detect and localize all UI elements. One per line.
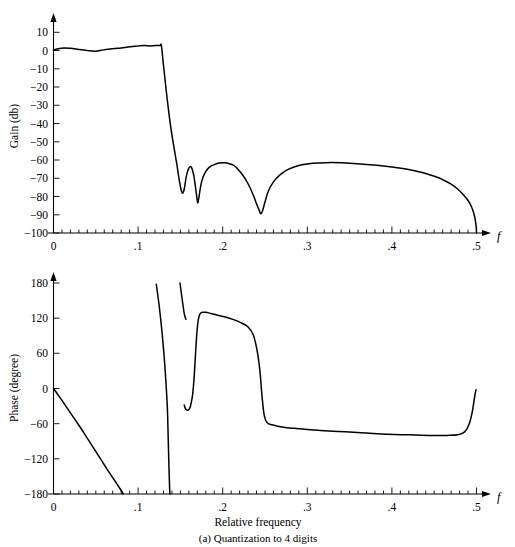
gain-x-ticklabel: .5 — [472, 240, 481, 252]
gain-y-ticklabel: −90 — [30, 209, 48, 221]
gain-y-ticklabels: 10 0 −10 −20 −30 −40 −50 −60 −70 −80 −90… — [24, 26, 48, 239]
phase-x-axis-symbol: f — [497, 490, 502, 504]
gain-x-axis-arrowhead — [482, 230, 491, 236]
phase-y-ticklabels: 180 120 60 0 −60 −120 −180 — [24, 277, 48, 500]
figure-svg: 10 0 −10 −20 −30 −40 −50 −60 −70 −80 −90… — [0, 0, 515, 547]
gain-y-ticklabel: −30 — [30, 99, 48, 111]
phase-x-ticklabel: .1 — [134, 501, 143, 513]
phase-y-ticklabel: 120 — [31, 312, 49, 324]
gain-x-ticklabels: 0 .1 .2 .3 .4 .5 — [51, 240, 481, 252]
gain-panel: 10 0 −10 −20 −30 −40 −50 −60 −70 −80 −90… — [8, 13, 502, 252]
gain-x-axis-symbol: f — [497, 229, 502, 243]
phase-y-axis — [50, 272, 56, 494]
phase-y-ticklabel: −180 — [24, 488, 48, 500]
gain-y-ticklabel: −100 — [24, 227, 48, 239]
gain-x-ticklabel: .2 — [218, 240, 227, 252]
gain-x-ticklabel: 0 — [51, 240, 57, 252]
phase-x-ticklabel: .5 — [472, 501, 481, 513]
gain-y-ticks — [54, 32, 60, 233]
gain-x-axis — [48, 230, 491, 236]
gain-y-ticklabel: 10 — [37, 26, 49, 38]
gain-y-ticklabel: 0 — [42, 45, 48, 57]
phase-y-ticklabel: 180 — [31, 277, 49, 289]
phase-y-ticklabel: −120 — [24, 453, 48, 465]
phase-y-ticklabel: −60 — [30, 418, 48, 430]
phase-x-axis-arrowhead — [482, 491, 491, 497]
phase-x-ticks — [54, 488, 477, 495]
gain-y-ticklabel: −80 — [30, 191, 48, 203]
phase-branch-2 — [156, 284, 170, 494]
filter-response-figure: 10 0 −10 −20 −30 −40 −50 −60 −70 −80 −90… — [0, 0, 515, 547]
phase-x-ticklabel: .3 — [303, 501, 312, 513]
phase-panel: 180 120 60 0 −60 −120 −180 0 .1 .2 .3 .4… — [8, 272, 502, 513]
phase-x-ticklabel: 0 — [51, 501, 57, 513]
gain-y-ticklabel: −40 — [30, 118, 48, 130]
gain-x-ticklabel: .4 — [388, 240, 397, 252]
gain-y-axis-arrowhead — [50, 13, 56, 22]
gain-y-ticklabel: −10 — [30, 63, 48, 75]
phase-y-ticklabel: 0 — [42, 383, 48, 395]
phase-y-axis-arrowhead — [50, 272, 56, 281]
phase-branch-3 — [180, 283, 186, 319]
phase-x-ticklabel: .4 — [388, 501, 397, 513]
gain-response-curve — [54, 44, 477, 233]
phase-x-ticklabel: .2 — [218, 501, 227, 513]
phase-x-ticklabels: 0 .1 .2 .3 .4 .5 — [51, 501, 481, 513]
phase-response-curves — [54, 283, 477, 494]
gain-y-ticklabel: −20 — [30, 81, 48, 93]
x-axis-title: Relative frequency — [214, 516, 301, 529]
gain-x-ticklabel: .1 — [134, 240, 143, 252]
phase-y-ticklabel: 60 — [37, 347, 49, 359]
gain-y-ticklabel: −60 — [30, 154, 48, 166]
figure-caption: (a) Quantization to 4 digits — [199, 532, 318, 545]
phase-branch-4 — [184, 312, 476, 435]
gain-y-axis — [50, 13, 56, 233]
phase-branch-1 — [54, 389, 124, 495]
phase-y-axis-title: Phase (degree) — [8, 354, 21, 422]
gain-y-ticklabel: −70 — [30, 172, 48, 184]
phase-x-axis — [48, 491, 491, 497]
gain-y-axis-title: Gain (db) — [8, 104, 21, 149]
gain-x-ticklabel: .3 — [303, 240, 312, 252]
gain-y-ticklabel: −50 — [30, 136, 48, 148]
gain-x-ticks — [54, 227, 477, 234]
